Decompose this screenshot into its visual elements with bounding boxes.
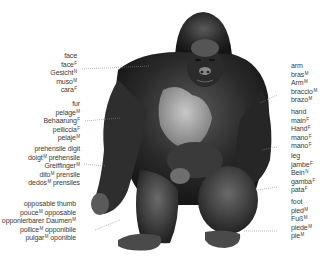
gender-marker: F xyxy=(310,161,313,166)
term-fr: pouce xyxy=(20,209,39,216)
term-en: hand xyxy=(291,108,306,115)
gender-marker: M xyxy=(304,79,308,84)
term-suffix: prensiles xyxy=(51,179,80,186)
gender-marker: M xyxy=(76,162,80,167)
gender-marker: M xyxy=(309,96,313,101)
term-es: cara xyxy=(61,86,74,93)
term-de: Gesicht xyxy=(50,69,73,76)
term-es: pelaje xyxy=(58,134,76,141)
term-it: braccio xyxy=(291,88,313,95)
gender-marker: F xyxy=(306,117,309,122)
gender-marker: F xyxy=(74,61,77,66)
term-en: face xyxy=(64,52,77,59)
gender-marker: M xyxy=(305,71,309,76)
term-fr: pied xyxy=(291,207,304,214)
gender-marker: M xyxy=(304,215,308,220)
term-fr: face xyxy=(61,61,74,68)
gender-marker: F xyxy=(77,117,80,122)
gender-marker: F xyxy=(312,178,315,183)
term-es: brazo xyxy=(291,96,308,103)
term-en: prehensile digit xyxy=(35,145,81,152)
term-de: Fuß xyxy=(291,215,303,222)
gender-marker: N xyxy=(74,69,77,74)
term-fr: pelage xyxy=(55,109,75,116)
term-de: Greiffinger xyxy=(44,162,75,169)
label-foot: foot piedM FußM piedeM pieM xyxy=(291,198,312,241)
label-arm: arm brasM ArmM braccioM brazoM xyxy=(291,62,317,105)
term-it: pollice xyxy=(20,226,39,233)
gender-marker: M xyxy=(39,209,43,214)
gender-marker: F xyxy=(309,142,312,147)
term-es: pata xyxy=(291,186,304,193)
gender-marker: F xyxy=(305,186,308,191)
gender-marker: F xyxy=(77,126,80,131)
term-en: arm xyxy=(291,62,303,69)
term-en: fur xyxy=(72,100,80,107)
term-it: mano xyxy=(291,134,308,141)
gender-marker: M xyxy=(313,88,317,93)
term-de: Behaarung xyxy=(43,117,76,124)
term-suffix: prensile xyxy=(54,171,80,178)
term-en: opposable thumb xyxy=(24,200,76,207)
term-fr: jambe xyxy=(291,161,310,168)
label-opposable-thumb: opposable thumb pouceM opposable opponie… xyxy=(2,200,76,243)
term-fr: main xyxy=(291,117,306,124)
term-en: leg xyxy=(291,152,300,159)
label-fur: fur pelageM BehaarungF pellicciaF pelaje… xyxy=(43,100,80,143)
term-fr: bras xyxy=(291,71,304,78)
term-it: gamba xyxy=(291,178,312,185)
term-de: Bein xyxy=(291,169,305,176)
term-suffix: opposable xyxy=(43,209,76,216)
term-de: opponierbarer Daumen xyxy=(2,217,72,224)
gender-marker: M xyxy=(47,179,51,184)
gender-marker: N xyxy=(305,169,308,174)
term-es: mano xyxy=(291,142,308,149)
label-hand: hand mainF HandF manoF manoF xyxy=(291,108,311,151)
label-leg: leg jambeF BeinN gambaF pataF xyxy=(291,152,315,195)
gender-marker: M xyxy=(301,232,305,237)
term-en: foot xyxy=(291,198,302,205)
gender-marker: M xyxy=(308,224,312,229)
term-it: dito xyxy=(39,171,50,178)
term-suffix: opponibile xyxy=(43,226,76,233)
gender-marker: F xyxy=(74,86,77,91)
term-it: pelliccia xyxy=(53,126,77,133)
gender-marker: F xyxy=(309,134,312,139)
term-it: piede xyxy=(291,224,308,231)
gender-marker: M xyxy=(43,154,47,159)
gender-marker: M xyxy=(51,171,55,176)
term-de: Arm xyxy=(291,79,304,86)
term-es: pulgar xyxy=(25,234,44,241)
gender-marker: F xyxy=(308,125,311,130)
label-face: face faceF GesichtN musoM caraF xyxy=(50,52,77,95)
gender-marker: M xyxy=(76,109,80,114)
term-es: pie xyxy=(291,232,300,239)
label-prehensile-digit: prehensile digit doigtM préhensile Greif… xyxy=(28,145,80,188)
term-suffix: préhensile xyxy=(47,154,80,161)
term-fr: doigt xyxy=(28,154,43,161)
term-es: dedos xyxy=(28,179,47,186)
gender-marker: M xyxy=(76,134,80,139)
gender-marker: M xyxy=(73,78,77,83)
gender-marker: M xyxy=(40,226,44,231)
gender-marker: M xyxy=(45,234,49,239)
term-suffix: oponible xyxy=(48,234,76,241)
term-it: muso xyxy=(56,78,73,85)
term-de: Hand xyxy=(291,125,307,132)
gender-marker: M xyxy=(72,217,76,222)
gender-marker: M xyxy=(304,207,308,212)
